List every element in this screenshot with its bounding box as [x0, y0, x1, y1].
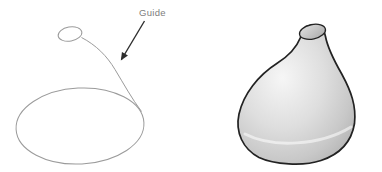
guide-curve-sketch — [14, 21, 146, 167]
guide-arrow — [122, 21, 145, 60]
large-profile-ellipse — [14, 85, 146, 168]
illustration-canvas: Guide — [0, 0, 382, 172]
rendered-vase — [238, 22, 355, 164]
modeling-diagram-svg — [0, 0, 382, 172]
guide-curve — [82, 38, 142, 112]
guide-label: Guide — [139, 7, 166, 18]
small-profile-ellipse — [57, 25, 83, 43]
